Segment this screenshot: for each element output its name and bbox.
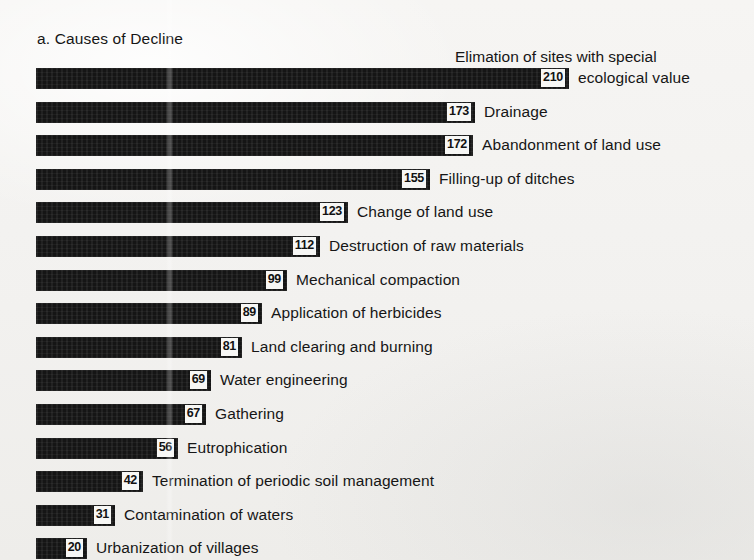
bar-row: 31Contamination of waters bbox=[36, 504, 293, 526]
bar-row: 173Drainage bbox=[36, 101, 548, 123]
bar: 89 bbox=[36, 303, 262, 324]
bar-category-label: Abandonment of land use bbox=[482, 136, 661, 154]
bar-category-label: Termination of periodic soil management bbox=[152, 472, 434, 490]
bar-category-label: Water engineering bbox=[220, 371, 348, 389]
bar: 173 bbox=[36, 102, 475, 123]
bar-row: 20Urbanization of villages bbox=[36, 537, 259, 559]
bar-value-label: 42 bbox=[122, 472, 139, 490]
bar-category-label: Destruction of raw materials bbox=[329, 237, 524, 255]
bar: 172 bbox=[36, 135, 473, 156]
bar-chart: 210ecological value173Drainage172Abandon… bbox=[0, 0, 754, 560]
bar-row: 67Gathering bbox=[36, 403, 284, 425]
bar-row: 112Destruction of raw materials bbox=[36, 235, 524, 257]
bar-value-label: 56 bbox=[157, 439, 174, 457]
bar-value-label: 89 bbox=[241, 304, 258, 322]
bar-row: 69Water engineering bbox=[36, 369, 348, 391]
bar-category-label: Contamination of waters bbox=[124, 506, 293, 524]
bar-value-label: 112 bbox=[293, 237, 316, 255]
bar-category-label: Urbanization of villages bbox=[96, 539, 259, 557]
bar-value-label: 172 bbox=[445, 136, 469, 154]
bar-value-label: 99 bbox=[266, 271, 283, 289]
bar-category-label: Change of land use bbox=[357, 203, 493, 221]
bar-category-label: Eutrophication bbox=[187, 439, 288, 457]
bar: 81 bbox=[36, 337, 242, 358]
bar-category-label: Drainage bbox=[484, 103, 548, 121]
bar: 20 bbox=[36, 538, 87, 559]
bar: 155 bbox=[36, 169, 430, 190]
bar: 210 bbox=[36, 68, 569, 89]
bar: 31 bbox=[36, 505, 115, 526]
bar-category-label: Gathering bbox=[215, 405, 284, 423]
bar: 56 bbox=[36, 438, 178, 459]
bar-row: 123Change of land use bbox=[36, 201, 493, 223]
bar-row: 99Mechanical compaction bbox=[36, 269, 460, 291]
bar-row: 56Eutrophication bbox=[36, 437, 288, 459]
bar-row: 81Land clearing and burning bbox=[36, 336, 433, 358]
bar-value-label: 173 bbox=[447, 103, 471, 121]
bar-row: 210ecological value bbox=[36, 67, 690, 89]
bar-value-label: 123 bbox=[320, 203, 344, 221]
bar: 112 bbox=[36, 236, 320, 257]
bar-row: 155Filling-up of ditches bbox=[36, 168, 575, 190]
bar-row: 172Abandonment of land use bbox=[36, 134, 661, 156]
bar-category-label: Filling-up of ditches bbox=[439, 170, 575, 188]
bar-row: 89Application of herbicides bbox=[36, 302, 442, 324]
bar: 67 bbox=[36, 404, 206, 425]
bar: 123 bbox=[36, 202, 348, 223]
bar: 42 bbox=[36, 471, 143, 492]
bar-category-label: Land clearing and burning bbox=[251, 338, 433, 356]
bar-value-label: 155 bbox=[402, 170, 426, 188]
bar-value-label: 20 bbox=[66, 539, 83, 557]
bar-category-label: Application of herbicides bbox=[271, 304, 442, 322]
bar-category-label: ecological value bbox=[578, 69, 690, 87]
bar-value-label: 67 bbox=[185, 405, 202, 423]
bar-value-label: 69 bbox=[190, 371, 207, 389]
bar-value-label: 210 bbox=[541, 69, 565, 87]
bar: 69 bbox=[36, 370, 211, 391]
bar-category-label: Mechanical compaction bbox=[296, 271, 460, 289]
bar-value-label: 81 bbox=[221, 338, 238, 356]
bar-row: 42Termination of periodic soil managemen… bbox=[36, 470, 434, 492]
bar: 99 bbox=[36, 270, 287, 291]
bar-value-label: 31 bbox=[94, 506, 111, 524]
